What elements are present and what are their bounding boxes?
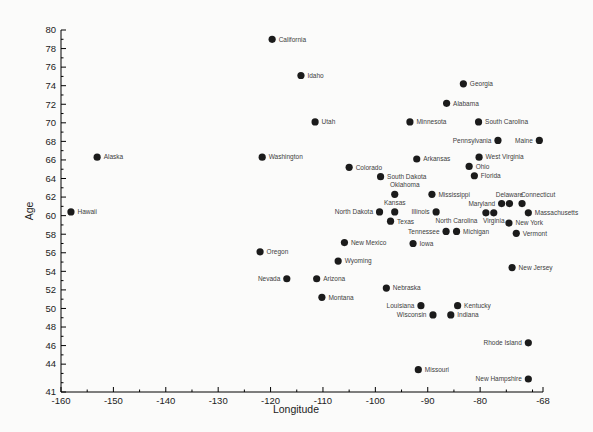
point-label-maryland: Maryland [468,200,495,208]
data-point-new-hampshire [525,375,532,382]
point-label-north-dakota: North Dakota [335,208,374,215]
data-point-wisconsin [429,311,436,318]
data-point-nebraska [383,284,390,291]
y-tick-label: 46 [45,340,56,351]
point-label-north-carolina: North Carolina [435,217,477,224]
data-point-california [269,36,276,43]
y-tick-label: 66 [45,154,56,165]
point-label-south-carolina: South Carolina [485,118,528,125]
point-label-michigan: Michigan [463,228,489,236]
x-tick-label: -140 [156,395,175,406]
y-tick-label: 68 [45,136,56,147]
point-label-oregon: Oregon [267,248,289,256]
point-label-ohio: Ohio [476,163,490,170]
point-label-new-hampshire: New Hampshire [476,375,523,383]
point-label-louisiana: Louisiana [387,302,415,309]
data-point-florida [471,172,478,179]
data-point-north-carolina [482,209,489,216]
data-point-alaska [94,154,101,161]
x-tick-label: -90 [421,395,435,406]
data-point-massachusetts [525,209,532,216]
data-point-kansas [391,208,398,215]
y-tick-label: 41 [45,386,56,397]
x-axis-title: Longitude [273,403,319,415]
data-point-louisiana [417,302,424,309]
data-point-hawaii [67,208,74,215]
data-point-oregon [256,248,263,255]
point-label-connecticut: Connecticut [521,191,556,198]
data-point-arizona [313,275,320,282]
data-point-michigan [453,228,460,235]
point-label-arizona: Arizona [323,275,345,282]
point-label-new-jersey: New Jersey [519,264,554,272]
data-point-virginia [490,209,497,216]
point-label-washington: Washington [269,153,303,161]
data-point-oklahoma [391,191,398,198]
y-tick-label: 58 [45,229,56,240]
data-point-arkansas [413,155,420,162]
y-tick-label: 56 [45,247,56,258]
data-point-kentucky [454,302,461,309]
point-label-virginia: Virginia [483,217,505,225]
data-point-new-mexico [341,239,348,246]
point-label-delaware: Delaware [496,191,524,198]
point-label-rhode-island: Rhode Island [484,339,523,346]
x-tick-label: -68 [536,395,550,406]
point-label-tennessee: Tennessee [408,228,440,235]
data-point-pennsylvania [494,137,501,144]
point-label-florida: Florida [481,172,501,179]
data-point-tennessee [442,228,449,235]
point-label-iowa: Iowa [420,240,434,247]
data-point-west-virginia [475,154,482,161]
point-label-minnesota: Minnesota [416,118,446,125]
x-tick-label: -130 [209,395,228,406]
data-point-mississippi [428,191,435,198]
point-label-idaho: Idaho [307,72,324,79]
data-point-illinois [433,208,440,215]
data-point-idaho [297,72,304,79]
x-tick-label: -100 [366,395,385,406]
y-axis-title: Age [23,202,35,221]
point-label-montana: Montana [328,294,354,301]
point-label-vermont: Vermont [523,230,547,237]
point-label-georgia: Georgia [470,80,494,88]
point-label-south-dakota: South Dakota [387,173,427,180]
point-label-texas: Texas [397,218,415,225]
point-label-massachusetts: Massachusetts [535,209,579,216]
y-tick-label: 44 [45,358,56,369]
data-point-maine [536,137,543,144]
point-label-kentucky: Kentucky [464,302,491,310]
y-tick-label: 70 [45,117,56,128]
data-point-new-jersey [508,264,515,271]
point-label-mississippi: Mississippi [438,191,469,199]
point-label-illinois: Illinois [412,208,431,215]
data-point-montana [318,294,325,301]
y-tick-label: 62 [45,191,56,202]
data-point-nevada [283,275,290,282]
data-point-rhode-island [525,339,532,346]
y-tick-label: 64 [45,173,56,184]
data-point-maryland [498,200,505,207]
point-label-new-mexico: New Mexico [351,239,387,246]
data-point-delaware [506,200,513,207]
data-point-vermont [513,230,520,237]
data-point-south-dakota [377,173,384,180]
point-label-missouri: Missouri [425,366,449,373]
y-tick-label: 52 [45,284,56,295]
data-point-ohio [466,163,473,170]
point-label-alabama: Alabama [453,100,479,107]
data-point-missouri [415,366,422,373]
point-label-nebraska: Nebraska [393,284,421,291]
data-point-georgia [460,80,467,87]
data-point-iowa [409,240,416,247]
scatter-chart-canvas: -160-150-140-130-120-110-100-90-80-68807… [0,0,593,432]
data-point-alabama [443,100,450,107]
point-label-alaska: Alaska [104,153,124,160]
point-label-indiana: Indiana [457,311,479,318]
y-tick-label: 78 [45,43,56,54]
data-point-north-dakota [376,208,383,215]
data-point-indiana [447,311,454,318]
point-label-nevada: Nevada [258,275,281,282]
point-label-wisconsin: Wisconsin [397,311,427,318]
point-label-west-virginia: West Virginia [486,153,524,161]
